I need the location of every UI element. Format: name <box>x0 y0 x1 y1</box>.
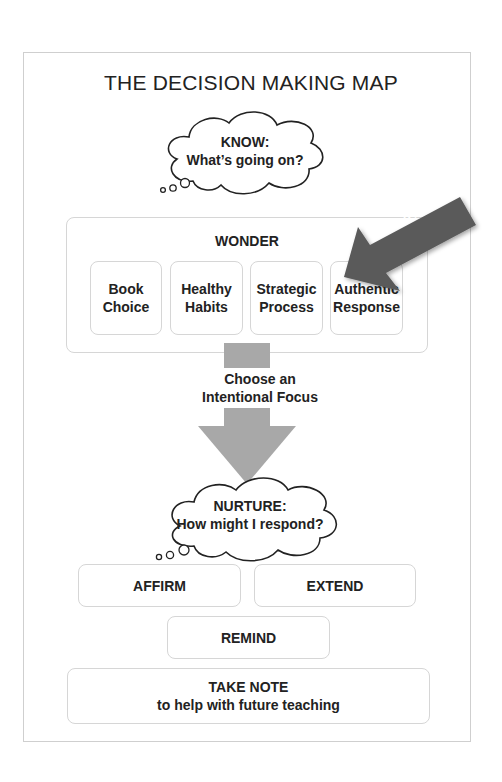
take-note-box[interactable]: TAKE NOTE to help with future teaching <box>67 668 430 724</box>
focus-line1: Choose an <box>150 370 370 388</box>
know-question: What’s going on? <box>155 151 335 169</box>
nurture-thought-cloud: NURTURE: How might I respond? <box>150 466 350 564</box>
diagram-title: THE DECISION MAKING MAP <box>0 71 502 95</box>
wonder-item-line2: Choice <box>103 298 150 316</box>
intentional-focus-label: Choose an Intentional Focus <box>150 370 370 406</box>
affirm-label: AFFIRM <box>133 578 186 594</box>
extend-label: EXTEND <box>307 578 364 594</box>
you-are-here-pointer: You Are Here <box>330 195 490 305</box>
connector-bar-top <box>224 343 270 368</box>
wonder-item-line2: Habits <box>181 298 232 316</box>
take-note-subtitle: to help with future teaching <box>157 696 340 714</box>
know-heading: KNOW: <box>155 133 335 151</box>
wonder-item-line1: Book <box>103 280 150 298</box>
nurture-heading: NURTURE: <box>150 497 350 515</box>
remind-label: REMIND <box>221 630 276 646</box>
wonder-item-healthy-habits[interactable]: Healthy Habits <box>170 261 243 335</box>
focus-line2: Intentional Focus <box>150 388 370 406</box>
wonder-item-book-choice[interactable]: Book Choice <box>90 261 162 335</box>
wonder-item-strategic-process[interactable]: Strategic Process <box>250 261 323 335</box>
nurture-question: How might I respond? <box>150 515 350 533</box>
affirm-box[interactable]: AFFIRM <box>78 564 241 607</box>
wonder-item-line1: Strategic <box>257 280 317 298</box>
know-thought-cloud: KNOW: What’s going on? <box>155 103 335 195</box>
take-note-title: TAKE NOTE <box>209 678 289 696</box>
wonder-item-line2: Process <box>257 298 317 316</box>
remind-box[interactable]: REMIND <box>167 616 330 659</box>
wonder-item-line1: Healthy <box>181 280 232 298</box>
extend-box[interactable]: EXTEND <box>254 564 416 607</box>
